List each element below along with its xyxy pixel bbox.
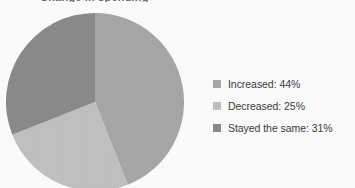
pie-chart-figure: Change in spending Increased: 44% Decrea… — [0, 0, 355, 188]
legend-swatch-increased — [213, 80, 221, 88]
legend-item-increased[interactable]: Increased: 44% — [213, 75, 351, 92]
legend-item-decreased[interactable]: Decreased: 25% — [213, 97, 351, 114]
pie-svg — [6, 13, 184, 188]
chart-legend: Increased: 44% Decreased: 25% Stayed the… — [213, 75, 351, 141]
pie-plot-area — [6, 13, 184, 188]
legend-label-increased: Increased: 44% — [228, 78, 300, 90]
chart-title-clipped: Change in spending — [40, 0, 150, 2]
legend-label-decreased: Decreased: 25% — [228, 100, 305, 112]
legend-item-stayed-the-same[interactable]: Stayed the same: 31% — [213, 119, 351, 136]
legend-swatch-stayed-the-same — [213, 124, 221, 132]
legend-swatch-decreased — [213, 102, 221, 110]
legend-label-stayed-the-same: Stayed the same: 31% — [228, 122, 333, 134]
